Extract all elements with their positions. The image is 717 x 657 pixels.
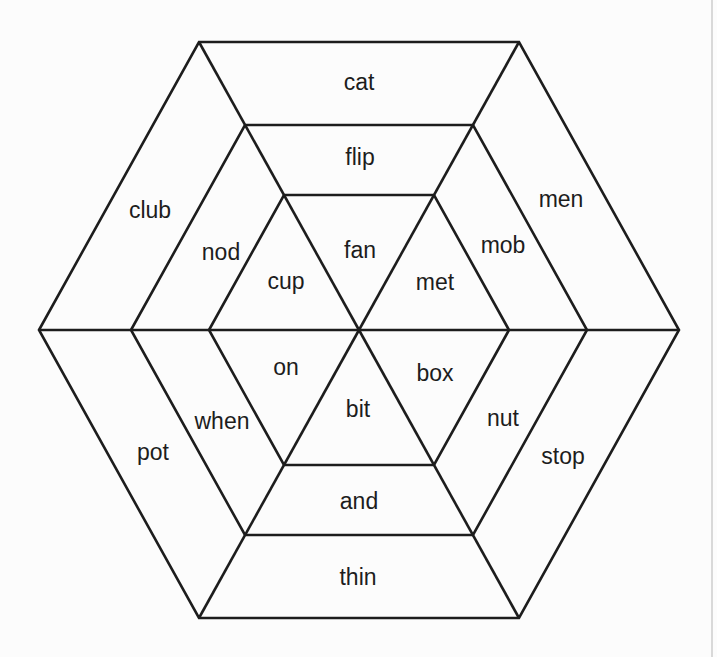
inner-triangle-lower-right-label: box (416, 360, 454, 386)
hexagon-word-diagram: cat men stop thin pot club flip mob nut … (0, 0, 717, 657)
middle-ring-lower-left-label: when (194, 408, 250, 434)
middle-ring-top-label: flip (345, 144, 374, 170)
inner-triangle-upper-right-label: met (416, 269, 455, 295)
outer-ring-bottom-label: thin (339, 564, 376, 590)
outer-ring-lower-left-label: pot (137, 439, 170, 465)
outer-ring-upper-right-label: men (539, 186, 584, 212)
outer-ring-top-label: cat (344, 69, 375, 95)
diagram-canvas: cat men stop thin pot club flip mob nut … (0, 0, 717, 657)
middle-ring-upper-right-label: mob (481, 232, 526, 258)
middle-ring-bottom-label: and (340, 488, 378, 514)
middle-ring-upper-left-label: nod (202, 239, 240, 265)
middle-ring-lower-right-label: nut (487, 405, 520, 431)
inner-triangle-lower-left-label: on (273, 354, 299, 380)
inner-triangle-top-label: fan (344, 237, 376, 263)
outer-ring-lower-right-label: stop (541, 443, 584, 469)
inner-triangle-bottom-label: bit (346, 396, 371, 422)
inner-triangle-upper-left-label: cup (267, 268, 304, 294)
outer-ring-upper-left-label: club (129, 197, 171, 223)
